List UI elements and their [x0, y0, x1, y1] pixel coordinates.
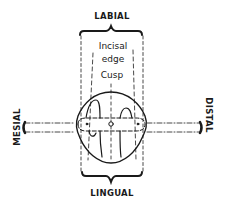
mesial-lower-ridge [89, 131, 96, 136]
mesial-contact-point [86, 123, 88, 125]
distal-axis-bar [147, 123, 200, 132]
mesial-cusp-ridge [86, 100, 102, 157]
cusp-tip-marker [109, 122, 113, 126]
incisal-edge-label-line2: edge [102, 54, 125, 64]
mesial-end-cap [24, 122, 26, 133]
lingual-label: LINGUAL [90, 188, 133, 198]
inner-right-guide [133, 50, 136, 160]
distal-contact-point [137, 123, 139, 125]
mesial-axis-bar [25, 123, 75, 132]
distal-cusp-ridge [120, 108, 132, 157]
mesial-label: MESIAL [12, 108, 22, 145]
incisal-edge-label-line1: Incisal [99, 41, 128, 51]
distal-end-cap [200, 122, 202, 133]
labial-label: LABIAL [94, 11, 129, 21]
diagram-graphics [0, 0, 225, 208]
lingual-brace [82, 172, 142, 182]
distal-label: DISTAL [204, 97, 214, 132]
cusp-label: Cusp [101, 70, 123, 80]
labial-brace [80, 26, 142, 35]
tooth-orientation-diagram: LABIAL Incisal edge Cusp LINGUAL MESIAL … [0, 0, 225, 208]
